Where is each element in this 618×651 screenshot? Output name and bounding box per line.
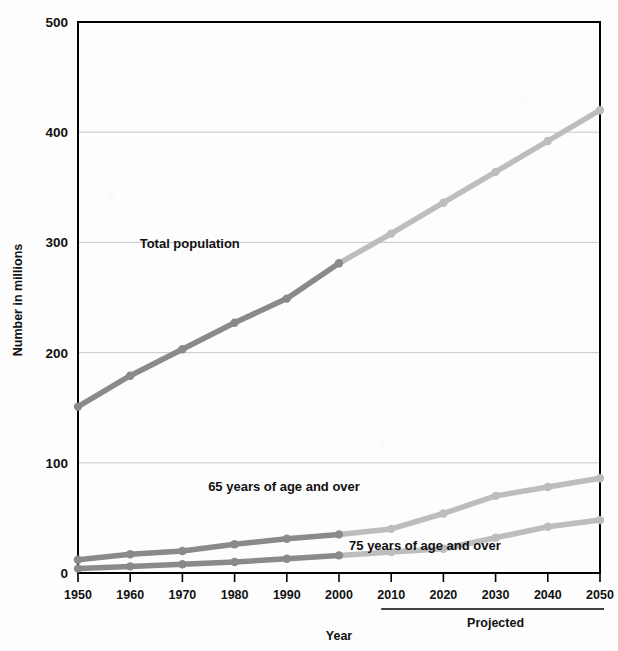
data-point-marker: [544, 483, 552, 491]
data-point-marker: [596, 474, 604, 482]
data-point-marker: [491, 492, 499, 500]
data-point-marker: [230, 558, 238, 566]
data-point-marker: [544, 523, 552, 531]
data-point-marker: [126, 372, 134, 380]
x-axis-tick-label: 1980: [221, 588, 249, 602]
data-point-marker: [178, 560, 186, 568]
x-axis-tick-label: 2010: [377, 588, 405, 602]
data-point-marker: [387, 229, 395, 237]
x-axis-title: Year: [326, 629, 353, 643]
data-point-marker: [178, 345, 186, 353]
series-line-historical: [78, 263, 339, 406]
y-axis-tick-label: 400: [45, 125, 68, 140]
data-point-marker: [126, 562, 134, 570]
x-axis-tick-label: 1950: [64, 588, 92, 602]
data-point-marker: [74, 564, 82, 572]
data-point-marker: [387, 525, 395, 533]
x-axis-tick-labels: 1950196019701980199020002010202020302040…: [64, 588, 614, 602]
data-point-marker: [230, 540, 238, 548]
data-point-marker: [283, 535, 291, 543]
x-axis-tick-label: 2020: [429, 588, 457, 602]
y-axis-tick-label: 200: [45, 346, 68, 361]
data-point-marker: [596, 516, 604, 524]
y-axis-tick-label: 0: [60, 566, 68, 581]
data-point-marker: [439, 199, 447, 207]
data-point-marker: [230, 319, 238, 327]
series-label: 75 years of age and over: [349, 538, 501, 553]
data-point-marker: [126, 550, 134, 558]
y-axis-tick-label: 300: [45, 235, 68, 250]
data-point-marker: [74, 556, 82, 564]
projected-label: Projected: [467, 616, 524, 630]
chart-canvas: 0100200300400500 19501960197019801990200…: [0, 0, 618, 651]
data-point-marker: [335, 259, 343, 267]
series-annotations-group: Total population65 years of age and over…: [140, 236, 501, 553]
data-point-marker: [439, 509, 447, 517]
x-axis-tick-label: 2040: [534, 588, 562, 602]
x-axis-tick-label: 1960: [116, 588, 144, 602]
y-axis-tick-label: 100: [45, 456, 68, 471]
data-point-marker: [596, 106, 604, 114]
data-series-group: [78, 110, 600, 568]
population-line-chart: 0100200300400500 19501960197019801990200…: [0, 0, 618, 651]
x-axis-tick-label: 1970: [168, 588, 196, 602]
data-point-marker: [335, 530, 343, 538]
series-label: Total population: [140, 236, 240, 251]
x-axis-tick-label: 2030: [482, 588, 510, 602]
gridlines-group: [78, 132, 600, 463]
data-point-marker: [283, 555, 291, 563]
data-point-marker: [544, 137, 552, 145]
data-point-marker: [74, 402, 82, 410]
data-point-markers-group: [74, 106, 604, 573]
x-axis-tick-label: 1990: [273, 588, 301, 602]
x-axis-tick-marks: [78, 573, 600, 582]
data-point-marker: [283, 294, 291, 302]
y-axis-title: Number in millions: [11, 244, 25, 357]
x-axis-tick-label: 2000: [325, 588, 353, 602]
y-axis-tick-label: 500: [45, 15, 68, 30]
y-axis-tick-labels: 0100200300400500: [45, 15, 68, 581]
series-line-projected: [339, 110, 600, 263]
data-point-marker: [491, 168, 499, 176]
series-label: 65 years of age and over: [208, 479, 360, 494]
data-point-marker: [178, 547, 186, 555]
x-axis-tick-label: 2050: [586, 588, 614, 602]
data-point-marker: [335, 551, 343, 559]
